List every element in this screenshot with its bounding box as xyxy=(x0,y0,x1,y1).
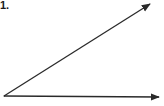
angle-diagram xyxy=(0,0,164,106)
vertex-point xyxy=(3,95,4,96)
lower-ray xyxy=(4,96,159,97)
upper-ray xyxy=(4,4,150,96)
